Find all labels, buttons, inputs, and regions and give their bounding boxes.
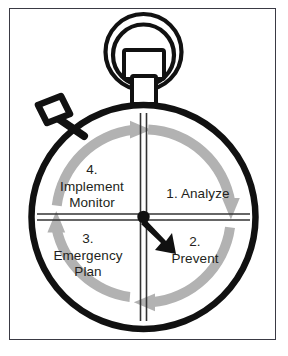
stopwatch-center-hub [137,211,149,223]
cycle-arrowhead-bottom-left [134,294,155,312]
crown-stem [132,76,156,104]
quadrant-label-prevent: 2. Prevent [152,234,238,267]
quadrant-label-implement-monitor: 4. Implement Monitor [44,162,140,212]
quadrant-label-analyze: 1. Analyze [150,186,246,203]
stopwatch-cycle-figure: 4. Implement Monitor 1. Analyze 3. Emerg… [0,0,288,356]
quadrant-label-emergency-plan: 3. Emergency Plan [40,231,136,281]
side-button-head [38,96,70,123]
